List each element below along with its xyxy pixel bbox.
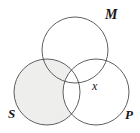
element-marker-x: x xyxy=(92,80,97,92)
venn-diagram-canvas xyxy=(0,0,140,133)
set-label-s: S xyxy=(8,107,15,120)
set-label-p: P xyxy=(125,108,133,121)
set-label-m: M xyxy=(105,8,117,22)
shaded-region-s-minus-p xyxy=(0,0,140,133)
venn-diagram-figure: M S P x xyxy=(0,0,140,133)
